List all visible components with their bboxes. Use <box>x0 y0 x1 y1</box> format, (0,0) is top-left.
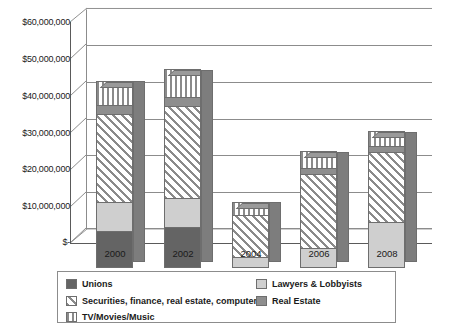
bar-2002-stack <box>164 69 201 268</box>
stacked-bar-chart: $60,000,000 $50,000,000 $40,000,000 $30,… <box>0 0 449 330</box>
bar-2008-side <box>405 132 417 262</box>
legend-label-realestate: Real Estate <box>272 296 321 306</box>
legend-swatch-securities-icon <box>66 296 77 306</box>
x-tick-label-2002: 2002 <box>155 248 211 259</box>
y-tick-label-0: $- <box>4 237 70 247</box>
bar-2000[interactable] <box>96 25 133 268</box>
y-tick-label-30m: $30,000,000 <box>4 128 70 138</box>
legend-item-lawyers[interactable]: Lawyers & Lobbyists <box>256 276 362 291</box>
bar-2004[interactable] <box>232 25 269 268</box>
bar-2008-segment-lawyers[interactable] <box>368 222 405 268</box>
bar-2008[interactable] <box>368 25 405 268</box>
bar-2006-top-face <box>304 152 337 158</box>
y-tick-label-60m: $60,000,000 <box>4 17 70 27</box>
bar-2000-segment-tv[interactable] <box>96 81 133 105</box>
y-axis-ticks: $60,000,000 $50,000,000 $40,000,000 $30,… <box>0 0 70 268</box>
y-tick-label-20m: $20,000,000 <box>4 164 70 174</box>
bar-2004-top-face <box>236 203 269 209</box>
plot-area: $60,000,000 $50,000,000 $40,000,000 $30,… <box>0 0 449 268</box>
bar-2006-segment-tv[interactable] <box>300 151 337 168</box>
legend-item-tv[interactable]: TV/Movies/Music <box>66 309 155 324</box>
legend-swatch-unions-icon <box>66 279 77 289</box>
legend-item-realestate[interactable]: Real Estate <box>256 293 321 308</box>
legend-swatch-tv-icon <box>66 312 77 322</box>
bar-2002-segment-tv[interactable] <box>164 69 201 97</box>
y-axis-line <box>70 22 71 244</box>
bar-2002-segment-lawyers[interactable] <box>164 198 201 227</box>
bar-2006[interactable] <box>300 25 337 268</box>
x-tick-label-2004: 2004 <box>223 248 279 259</box>
legend-label-lawyers: Lawyers & Lobbyists <box>272 279 362 289</box>
bar-2000-segment-securities[interactable] <box>96 114 133 202</box>
legend-swatch-realestate-icon <box>256 296 267 306</box>
chart-left-wall <box>70 22 87 244</box>
chart-legend: Unions Securities, finance, real estate,… <box>57 271 396 323</box>
bar-2000-side <box>133 81 145 262</box>
y-tick-label-10m: $10,000,000 <box>4 201 70 211</box>
legend-item-unions[interactable]: Unions <box>66 276 113 291</box>
bar-2000-segment-realestate[interactable] <box>96 105 133 114</box>
legend-swatch-lawyers-icon <box>256 279 267 289</box>
legend-item-securities[interactable]: Securities, finance, real estate, comput… <box>66 293 262 308</box>
chart-top-cap <box>70 8 432 23</box>
bar-2002-top-face <box>168 70 201 76</box>
bar-2002-side <box>201 70 213 262</box>
bar-2008-segment-securities[interactable] <box>368 152 405 222</box>
x-tick-label-2000: 2000 <box>87 248 143 259</box>
bar-2004-segment-tv[interactable] <box>232 202 269 215</box>
bar-2000-top-face <box>100 82 133 88</box>
legend-label-unions: Unions <box>82 279 113 289</box>
bar-2008-segment-tv[interactable] <box>368 131 405 146</box>
bar-2006-side <box>337 152 349 262</box>
bar-2002-segment-securities[interactable] <box>164 106 201 198</box>
bar-2006-segment-securities[interactable] <box>300 174 337 248</box>
legend-label-securities: Securities, finance, real estate, comput… <box>82 296 262 306</box>
bar-2002-segment-realestate[interactable] <box>164 97 201 106</box>
y-tick-label-40m: $40,000,000 <box>4 91 70 101</box>
y-tick-label-50m: $50,000,000 <box>4 54 70 64</box>
x-tick-label-2008: 2008 <box>359 248 415 259</box>
bar-2008-top-face <box>372 132 405 138</box>
bar-2000-segment-lawyers[interactable] <box>96 202 133 231</box>
bar-2000-stack <box>96 81 133 268</box>
bar-2002[interactable] <box>164 25 201 268</box>
legend-label-tv: TV/Movies/Music <box>82 312 155 322</box>
x-tick-label-2006: 2006 <box>291 248 347 259</box>
